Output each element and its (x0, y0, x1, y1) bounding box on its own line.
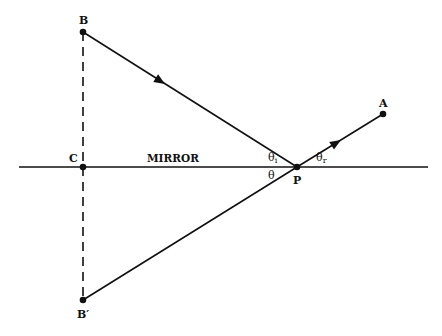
diagram-drawing (0, 0, 442, 336)
label-p: P (293, 175, 301, 186)
point-b (80, 29, 87, 36)
label-a: A (379, 98, 388, 109)
label-theta-r: θr (316, 152, 326, 165)
label-theta-i: θi (268, 152, 277, 165)
theta-symbol: θ (316, 151, 323, 164)
label-bprime: B′ (77, 309, 89, 320)
label-c: C (69, 153, 78, 164)
arrow-icon-reflected (329, 136, 343, 149)
point-p (294, 164, 301, 171)
label-b: B (79, 15, 88, 26)
theta-symbol: θ (268, 151, 275, 164)
mirror-reflection-diagram: B C MIRROR P A B′ θi θr θ (0, 0, 442, 336)
theta-sub-i: i (275, 156, 278, 165)
virtual-ray (83, 167, 297, 300)
arrow-icon-incident (153, 74, 167, 87)
incident-ray (83, 32, 297, 167)
label-mirror: MIRROR (147, 153, 199, 164)
label-theta: θ (268, 170, 275, 181)
point-bprime (80, 297, 87, 304)
point-a (380, 111, 387, 118)
point-c (80, 164, 87, 171)
theta-sub-r: r (323, 156, 327, 165)
